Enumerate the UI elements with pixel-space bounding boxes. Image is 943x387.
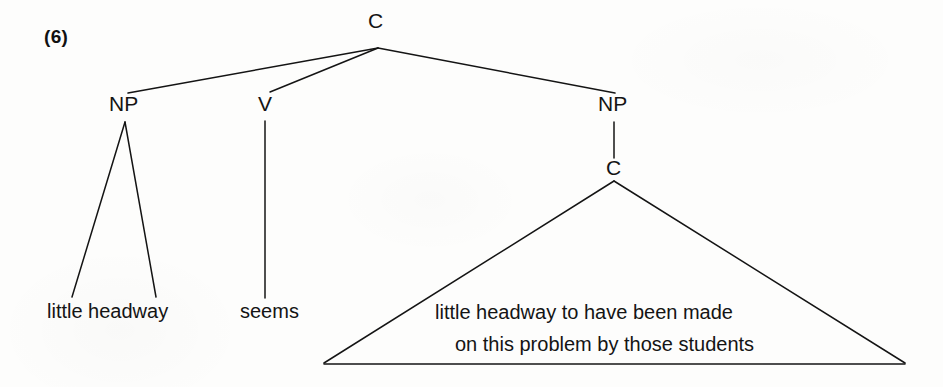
- branch-np-left-triangle-left: [72, 122, 125, 297]
- branch-root-to-v: [270, 48, 378, 92]
- branch-root-to-np-left: [128, 48, 378, 93]
- leaf-text-little-headway: little headway: [47, 301, 168, 321]
- tree-branch-lines: [0, 0, 943, 387]
- branch-np-left-triangle-right: [125, 122, 156, 297]
- triangle-text-line-1: little headway to have been made: [435, 302, 733, 322]
- branch-root-to-np-right: [378, 48, 615, 93]
- example-number-label: (6): [44, 26, 68, 48]
- leaf-text-seems: seems: [240, 301, 299, 321]
- node-label-root-c: C: [368, 10, 383, 31]
- node-label-v: V: [258, 93, 272, 114]
- triangle-text-line-2: on this problem by those students: [455, 334, 754, 354]
- tree-diagram-figure: (6) C NP V NP C little headway seems lit…: [0, 0, 943, 387]
- node-label-np-left: NP: [109, 93, 139, 114]
- node-label-embedded-c: C: [606, 157, 621, 178]
- node-label-np-right: NP: [598, 93, 628, 114]
